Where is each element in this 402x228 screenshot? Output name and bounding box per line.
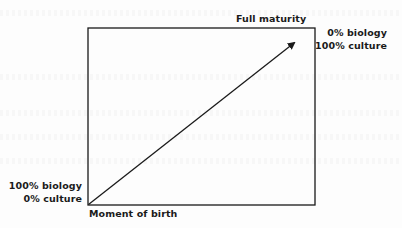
end-biology-label: 0% biology [315, 27, 387, 39]
start-biology-label: 100% biology [9, 180, 82, 192]
end-culture-label: 100% culture [315, 40, 387, 52]
full-maturity-label: Full maturity [236, 13, 306, 25]
page: Full maturity 0% biology 100% culture 10… [0, 0, 402, 228]
start-culture-label: 0% culture [9, 193, 82, 205]
start-point-label: 100% biology 0% culture [9, 180, 82, 205]
development-arrow [89, 43, 295, 205]
moment-of-birth-label: Moment of birth [89, 208, 177, 220]
end-point-label: 0% biology 100% culture [315, 27, 387, 52]
